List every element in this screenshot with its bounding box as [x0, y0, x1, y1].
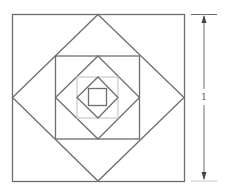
nested-squares-diagram: [0, 0, 227, 188]
diamond-2: [56, 56, 140, 139]
square-2: [56, 56, 140, 139]
arrowhead-down-icon: [202, 172, 207, 180]
square-3-light: [77, 77, 118, 118]
dimension-label: 1: [200, 89, 208, 105]
outer-square: [13, 15, 185, 182]
arrowhead-up-icon: [202, 15, 207, 23]
diamond-3: [77, 77, 118, 118]
diamond-1: [13, 15, 185, 182]
square-4-inner: [89, 89, 107, 106]
